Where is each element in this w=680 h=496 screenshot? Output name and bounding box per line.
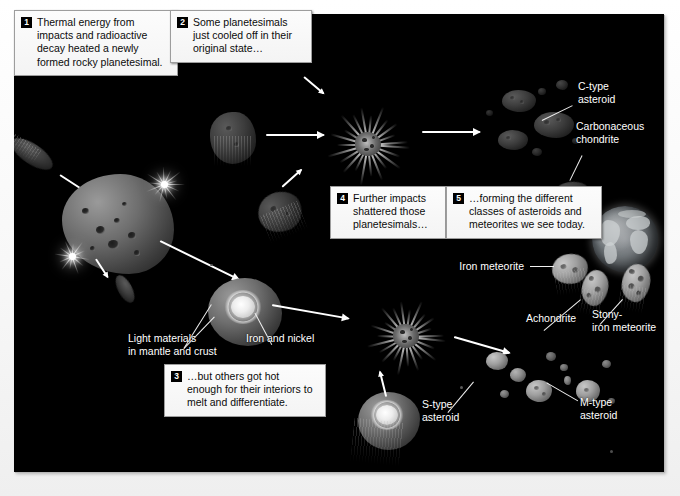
label-achondrite: Achondrite (526, 312, 576, 325)
label-s-type-asteroid: S-type asteroid (422, 398, 459, 423)
dust-speck (610, 450, 613, 453)
caption-badge-2: 2 (177, 17, 188, 28)
caption-badge-3: 3 (171, 371, 182, 382)
shatter-burst-bottom (366, 296, 446, 376)
label-stony-iron-meteorite: Stony- iron meteorite (592, 308, 656, 333)
label-iron-meteorite: Iron meteorite (426, 260, 524, 273)
leader-iron-meteorite (530, 266, 554, 267)
dust-speck (460, 386, 463, 389)
caption-text-4: Further impacts shattered those planetes… (353, 192, 437, 232)
differentiated-planetesimal-lower (358, 392, 420, 450)
shatter-burst-top (326, 102, 410, 186)
caption-box-2: 2 Some planetesimals just cooled off in … (170, 10, 312, 63)
label-iron-and-nickel: Iron and nickel (246, 332, 314, 345)
dust-speck (210, 264, 213, 266)
caption-text-1: Thermal energy from impacts and radioact… (37, 16, 169, 69)
stony-iron-meteorite-specimen (619, 262, 653, 304)
s-type-m-type-asteroid-cluster (476, 346, 626, 436)
label-m-type-asteroid: M-type asteroid (580, 396, 617, 421)
impact-flash-top (142, 162, 186, 206)
label-c-type-asteroid: C-type asteroid (578, 80, 615, 105)
arrow-to-shatter-top (266, 134, 324, 136)
caption-badge-5: 5 (453, 193, 464, 204)
caption-box-1: 1 Thermal energy from impacts and radioa… (14, 10, 178, 76)
planetesimal-unmelted-1 (210, 112, 256, 164)
figure-plate: C-type asteroid Carbonaceous chondrite (14, 14, 664, 472)
caption-text-2: Some planetesimals just cooled off in th… (193, 16, 303, 56)
planetesimal-unmelted-2 (252, 185, 308, 239)
caption-text-3: …but others got hot enough for their int… (187, 370, 317, 410)
arrow-into-burst-top-upper (303, 76, 324, 94)
arrow-burst-to-ctype (422, 131, 480, 133)
caption-badge-1: 1 (21, 17, 32, 28)
label-light-materials: Light materials in mantle and crust (128, 332, 217, 357)
arrow-differentiated-to-shatter (272, 304, 349, 320)
incoming-impactor-upper-left (14, 132, 57, 175)
caption-box-3: 3 …but others got hot enough for their i… (164, 364, 326, 417)
incoming-impactor-lower-left (112, 272, 138, 305)
label-carbonaceous-chondrite: Carbonaceous chondrite (576, 120, 644, 145)
impact-flash-bottom (52, 236, 92, 276)
caption-badge-4: 4 (337, 193, 348, 204)
figure-page: C-type asteroid Carbonaceous chondrite (0, 0, 680, 496)
caption-box-4: 4 Further impacts shattered those planet… (330, 186, 446, 239)
caption-text-5: …forming the different classes of astero… (469, 192, 593, 232)
caption-box-5: 5 …forming the different classes of aste… (446, 186, 602, 239)
